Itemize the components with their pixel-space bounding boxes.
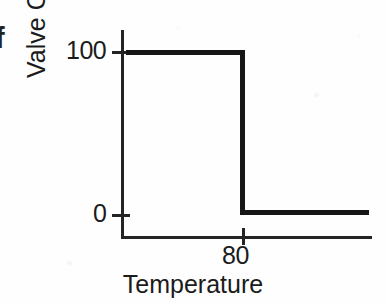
valve-opening-step-chart: f 100 0 80 Valve Opening Temperature bbox=[0, 0, 386, 306]
step-segment-transition-drop bbox=[240, 50, 245, 215]
scan-grain-overlay bbox=[0, 0, 386, 306]
y-axis-title: Valve Opening bbox=[18, 0, 54, 78]
y-axis-line bbox=[121, 30, 124, 239]
step-segment-lower-closed bbox=[240, 210, 369, 215]
x-tick-label-80: 80 bbox=[222, 243, 249, 268]
y-tick-label-100: 100 bbox=[66, 38, 106, 63]
clipped-edge-glyph: f bbox=[0, 24, 5, 53]
x-axis-line bbox=[121, 236, 372, 239]
step-segment-upper-open bbox=[126, 50, 245, 55]
y-tick-0 bbox=[112, 214, 130, 217]
x-axis-title: Temperature bbox=[0, 272, 386, 297]
y-tick-label-0: 0 bbox=[93, 201, 107, 226]
